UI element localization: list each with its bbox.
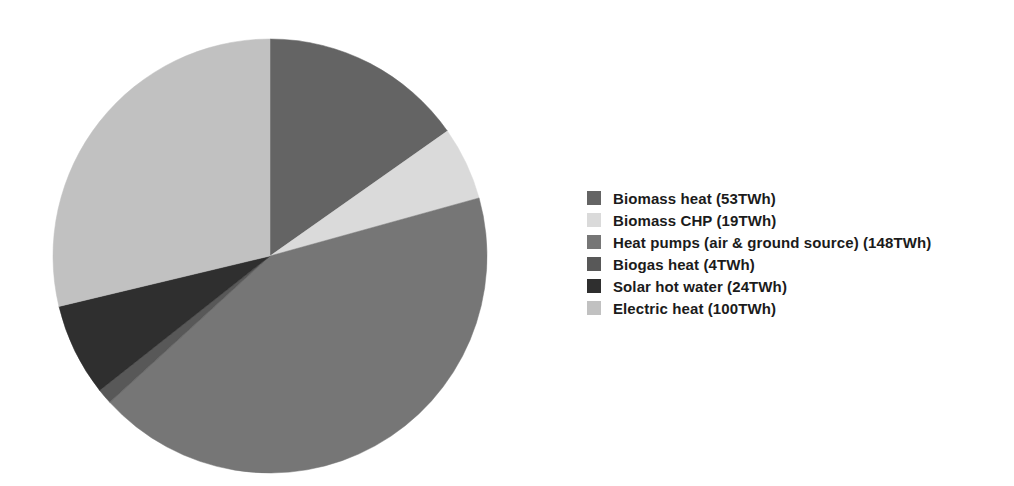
pie-chart <box>0 0 520 486</box>
legend-swatch <box>587 235 601 249</box>
figure-canvas: Biomass heat (53TWh)Biomass CHP (19TWh)H… <box>0 0 1014 486</box>
legend-swatch <box>587 279 601 293</box>
legend-label: Electric heat (100TWh) <box>613 300 776 317</box>
legend-swatch <box>587 191 601 205</box>
legend-label: Biogas heat (4TWh) <box>613 256 755 273</box>
legend-swatch <box>587 301 601 315</box>
legend-label: Biomass heat (53TWh) <box>613 190 776 207</box>
pie-chart-area <box>0 0 520 486</box>
legend-swatch <box>587 213 601 227</box>
legend-item: Biogas heat (4TWh) <box>587 253 931 275</box>
legend-label: Heat pumps (air & ground source) (148TWh… <box>613 234 931 251</box>
legend-item: Heat pumps (air & ground source) (148TWh… <box>587 231 931 253</box>
legend-item: Electric heat (100TWh) <box>587 297 931 319</box>
legend-label: Biomass CHP (19TWh) <box>613 212 776 229</box>
legend-item: Biomass heat (53TWh) <box>587 187 931 209</box>
legend-label: Solar hot water (24TWh) <box>613 278 787 295</box>
legend-item: Solar hot water (24TWh) <box>587 275 931 297</box>
chart-legend: Biomass heat (53TWh)Biomass CHP (19TWh)H… <box>587 187 931 319</box>
legend-swatch <box>587 257 601 271</box>
legend-item: Biomass CHP (19TWh) <box>587 209 931 231</box>
